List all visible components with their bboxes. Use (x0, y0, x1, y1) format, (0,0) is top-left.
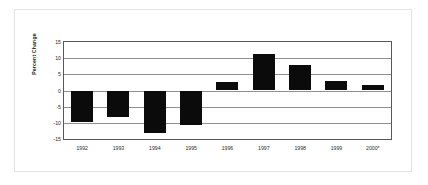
x-axis-tick-label: 1992 (76, 145, 88, 151)
bar-slot: 2000* (355, 42, 391, 139)
x-axis-tick-label: 1995 (185, 145, 197, 151)
y-axis-title: Percent Change (31, 14, 37, 94)
y-axis-tick-label: 10 (55, 55, 61, 61)
y-axis-tick-label: 5 (58, 71, 61, 77)
bar-2000-est (362, 85, 384, 91)
bar-1997 (253, 54, 275, 90)
bar-1994 (144, 91, 166, 134)
x-axis-tick-label: 1998 (294, 145, 306, 151)
x-axis-tick-label: 1993 (113, 145, 125, 151)
x-axis-tick-label: 1996 (222, 145, 234, 151)
y-axis-tick-label: -15 (54, 136, 62, 142)
bar-chart: Percent Change 151050-5-10-15 1992199319… (14, 9, 412, 172)
bar-1999 (325, 81, 347, 91)
bar-slot: 1994 (137, 42, 173, 139)
bar-1993 (107, 91, 129, 118)
y-axis-tick-label: 15 (55, 39, 61, 45)
bar-1992 (71, 91, 93, 123)
y-axis-tick-label: -5 (56, 104, 61, 110)
bar-slot: 1995 (173, 42, 209, 139)
bar-1995 (180, 91, 202, 126)
x-axis-tick-label: 1994 (149, 145, 161, 151)
plot-area: 151050-5-10-15 1992199319941995199619971… (63, 41, 392, 140)
x-axis-tick-label: 2000* (366, 145, 380, 151)
bar-slot: 1998 (282, 42, 318, 139)
bar-slot: 1993 (100, 42, 136, 139)
bar-1998 (289, 65, 311, 90)
x-axis-tick-label: 1999 (331, 145, 343, 151)
bar-slot: 1999 (318, 42, 354, 139)
gridline (64, 139, 391, 140)
y-axis-tick-label: 0 (58, 88, 61, 94)
bar-1996 (216, 82, 238, 91)
y-axis-tick-label: -10 (54, 120, 62, 126)
bar-slot: 1992 (64, 42, 100, 139)
chart-screenshot: Percent Change 151050-5-10-15 1992199319… (0, 0, 428, 185)
bar-slot: 1997 (246, 42, 282, 139)
bar-slot: 1996 (209, 42, 245, 139)
bar-series: 199219931994199519961997199819992000* (64, 42, 391, 139)
x-axis-tick-label: 1997 (258, 145, 270, 151)
